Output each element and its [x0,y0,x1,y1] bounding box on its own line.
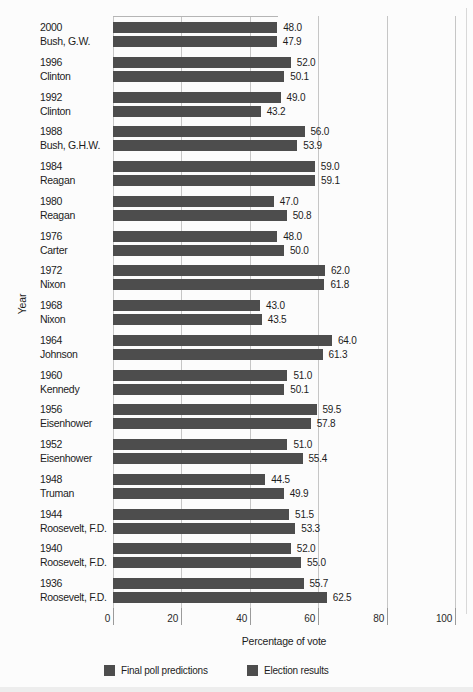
year-label: 1944 [40,508,112,520]
year-label: 1956 [40,403,112,415]
result-value-label: 49.9 [290,488,309,499]
scan-bottom-band [0,687,473,692]
year-label: 1960 [40,369,112,381]
poll-value-label: 59.5 [323,404,342,415]
x-tick-label: 100 [422,612,452,625]
poll-value-label: 51.5 [295,509,314,520]
year-label: 1984 [40,160,112,172]
year-label: 1952 [40,438,112,450]
result-value-label: 50.1 [290,384,309,395]
poll-value-label: 44.5 [271,474,290,485]
result-bar [113,418,311,429]
year-label: 1936 [40,577,112,589]
poll-bar [113,439,287,450]
result-value-label: 43.2 [267,106,286,117]
year-label: 1972 [40,264,112,276]
result-value-label: 50.1 [290,71,309,82]
result-bar [113,210,287,221]
poll-bar [113,404,317,415]
legend-label-election-results: Election results [264,664,329,677]
poll-value-label: 52.0 [297,543,316,554]
president-label: Johnson [40,348,112,360]
result-value-label: 57.8 [317,418,336,429]
year-label: 2000 [40,21,112,33]
poll-bar [113,300,260,311]
poll-value-label: 52.0 [297,57,316,68]
x-tick [455,608,456,625]
page-edge-line [466,8,467,614]
poll-bar [113,196,274,207]
poll-bar [113,543,291,554]
x-tick-label: 60 [285,612,315,625]
result-bar [113,106,261,117]
poll-bar [113,474,265,485]
poll-bar [113,57,291,68]
legend-swatch-final-poll [104,665,115,676]
poll-bar [113,335,332,346]
president-label: Nixon [40,278,112,290]
result-value-label: 50.0 [290,245,309,256]
president-label: Clinton [40,105,112,117]
year-label: 1976 [40,230,112,242]
president-label: Roosevelt, F.D. [40,556,112,568]
year-label: 1980 [40,195,112,207]
poll-bar [113,265,325,276]
poll-bar [113,126,305,137]
president-label: Truman [40,487,112,499]
president-label: Bush, G.W. [40,35,112,47]
result-value-label: 47.9 [283,36,302,47]
gridline [455,16,456,612]
result-value-label: 61.8 [330,279,349,290]
x-tick [387,608,388,625]
result-bar [113,279,324,290]
poll-bar [113,92,281,103]
poll-value-label: 62.0 [331,265,350,276]
poll-value-label: 48.0 [283,231,302,242]
result-value-label: 55.4 [309,453,328,464]
year-label: 1992 [40,91,112,103]
poll-bar [113,161,315,172]
result-value-label: 61.3 [329,349,348,360]
x-tick-label: 40 [217,612,247,625]
x-tick [181,608,182,625]
x-tick [250,608,251,625]
president-label: Roosevelt, F.D. [40,522,112,534]
poll-value-label: 51.0 [293,439,312,450]
poll-vs-results-bar-chart: 2000Bush, G.W.48.047.91996Clinton52.050.… [0,0,473,692]
president-label: Kennedy [40,383,112,395]
legend-swatch-election-results [247,665,258,676]
president-label: Nixon [40,313,112,325]
year-label: 1996 [40,56,112,68]
president-label: Roosevelt, F.D. [40,591,112,603]
x-tick [113,608,114,625]
result-bar [113,488,284,499]
result-value-label: 55.0 [307,557,326,568]
poll-bar [113,22,277,33]
president-label: Clinton [40,70,112,82]
result-bar [113,245,284,256]
poll-value-label: 47.0 [280,196,299,207]
poll-value-label: 56.0 [311,126,330,137]
result-bar [113,523,295,534]
president-label: Eisenhower [40,452,112,464]
poll-value-label: 64.0 [338,335,357,346]
legend-label-final-poll: Final poll predictions [121,664,208,677]
x-tick-label: 20 [148,612,178,625]
x-axis-title: Percentage of vote [209,635,359,647]
poll-value-label: 51.0 [293,370,312,381]
result-bar [113,349,323,360]
poll-value-label: 55.7 [310,578,329,589]
result-bar [113,140,297,151]
gridline [387,16,388,612]
year-label: 1940 [40,542,112,554]
result-bar [113,314,262,325]
president-label: Carter [40,244,112,256]
result-value-label: 53.3 [301,523,320,534]
result-bar [113,453,303,464]
result-bar [113,557,301,568]
result-value-label: 43.5 [268,314,287,325]
poll-bar [113,370,287,381]
y-axis-title: Year [16,284,28,324]
year-label: 1988 [40,125,112,137]
plot-top-edge-line [113,16,278,17]
